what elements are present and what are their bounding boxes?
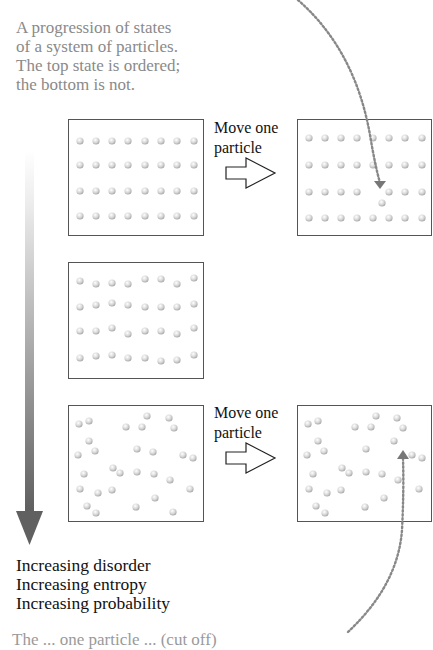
trend-label-probability: Increasing probability: [16, 594, 170, 613]
panel-ordered-moved: [297, 119, 432, 236]
panel-ordered: [68, 119, 204, 236]
trend-label-entropy: Increasing entropy: [16, 575, 170, 594]
caption-bottom: The ... one particle ... (cut off): [12, 630, 217, 650]
panel-slightly-disordered: [68, 262, 204, 379]
trend-labels: Increasing disorder Increasing entropy I…: [16, 556, 170, 613]
panel-disordered-moved: [297, 405, 432, 522]
caption-line: of a system of particles.: [16, 37, 180, 56]
caption-line: A progression of states: [16, 18, 180, 37]
trend-down-arrow-icon: [16, 150, 43, 545]
panel-disordered: [68, 405, 204, 522]
caption-line: the bottom is not.: [16, 75, 180, 94]
hollow-right-arrow-icon: [226, 443, 275, 473]
transition-label-top: Move one particle: [214, 118, 278, 158]
transition-label-bottom: Move one particle: [214, 403, 278, 443]
caption-line: The top state is ordered;: [16, 56, 180, 75]
caption-top: A progression of states of a system of p…: [16, 18, 180, 94]
trend-label-disorder: Increasing disorder: [16, 556, 170, 575]
hollow-right-arrow-icon: [226, 158, 275, 188]
